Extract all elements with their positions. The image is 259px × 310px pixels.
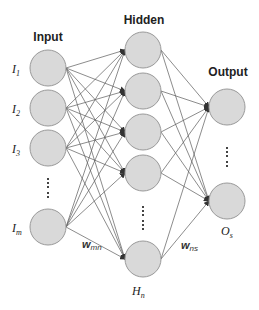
output-ellipsis-icon: [226, 147, 228, 167]
weight-label-hidden-output: wns: [181, 239, 198, 253]
hidden-layer-title: Hidden: [124, 13, 165, 27]
connection-edge: [66, 68, 125, 91]
input-node-m: [30, 209, 66, 245]
hidden-node-n: [125, 241, 161, 277]
input-node-1-label: I1: [11, 62, 20, 78]
input-node-1: [30, 50, 66, 86]
input-node-2-label: I2: [11, 102, 20, 118]
connection-edge: [66, 132, 125, 227]
hidden-node-3: [125, 114, 161, 150]
input-layer-title: Input: [33, 30, 62, 44]
connection-edge: [161, 50, 209, 201]
connection-edge: [66, 108, 125, 259]
connection-edge: [161, 107, 209, 259]
connection-edge: [161, 91, 209, 107]
connection-edge: [161, 107, 209, 132]
hidden-output-connections: [161, 50, 209, 259]
input-node-2: [30, 90, 66, 126]
weight-label-input-hidden: wmn: [82, 238, 102, 252]
connection-edge: [66, 68, 125, 173]
network-svg: Input Hidden Output I1 I2 I3 Im: [0, 0, 259, 310]
hidden-node-1: [125, 32, 161, 68]
output-node-1: [209, 89, 245, 125]
connection-edge: [161, 107, 209, 173]
hidden-node-n-label: Hn: [131, 284, 145, 300]
connection-edge: [161, 91, 209, 201]
output-layer-title: Output: [208, 65, 247, 79]
hidden-node-4: [125, 155, 161, 191]
hidden-node-2: [125, 73, 161, 109]
connection-edge: [66, 148, 125, 173]
output-node-s-label: Os: [221, 224, 233, 240]
connection-edge: [161, 50, 209, 107]
input-hidden-connections: [66, 50, 125, 259]
input-node-3-label: I3: [11, 142, 20, 158]
input-node-3: [30, 130, 66, 166]
input-ellipsis-icon: [47, 178, 49, 198]
output-node-s: [209, 183, 245, 219]
input-node-m-label: Im: [11, 221, 22, 237]
hidden-ellipsis-icon: [142, 206, 144, 230]
connection-edge: [161, 132, 209, 201]
neural-network-diagram: Input Hidden Output I1 I2 I3 Im: [0, 0, 259, 310]
